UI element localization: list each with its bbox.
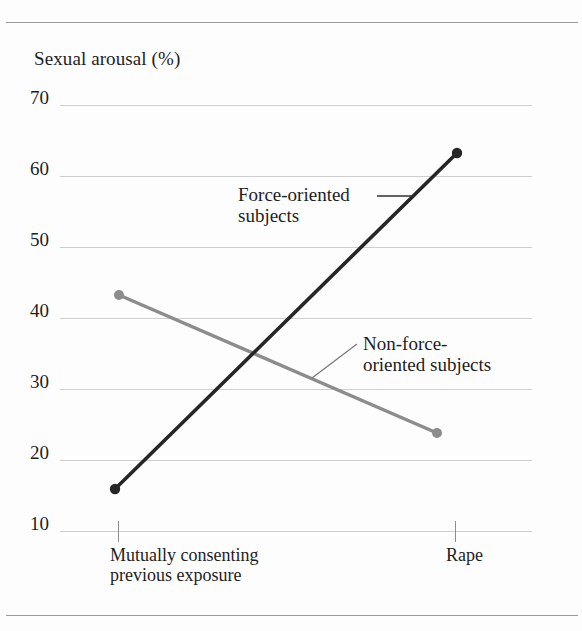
annotation-non-force-oriented-subjects: Non-force- oriented subjects [363, 333, 491, 376]
data-point-non-force-oriented-start [114, 290, 124, 300]
figure-container: Sexual arousal (%) 70 60 50 40 30 20 10 … [0, 0, 582, 631]
leader-line-non-force-oriented [312, 344, 357, 378]
data-point-force-oriented-start [110, 484, 120, 494]
data-point-non-force-oriented-end [432, 428, 442, 438]
plot-area [0, 0, 582, 631]
data-point-force-oriented-end [452, 148, 462, 158]
annotation-force-oriented-subjects: Force-oriented subjects [238, 184, 350, 227]
